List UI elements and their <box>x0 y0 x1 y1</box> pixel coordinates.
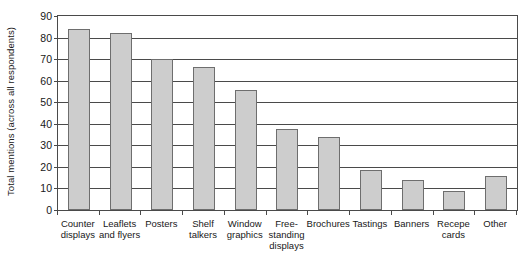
x-tick-label: Windowgraphics <box>227 218 263 240</box>
x-tick-label: Counterdisplays <box>61 218 95 240</box>
x-tick-label-line: Window <box>227 218 263 229</box>
x-tick-label: Recepecards <box>437 218 470 240</box>
bar-slot <box>225 16 267 210</box>
x-tick-label: Brochures <box>307 218 350 229</box>
bar-chart: Total mentions (across all respondents) … <box>0 0 530 265</box>
x-tick-label-line: cards <box>437 229 470 240</box>
x-tick-mark <box>474 210 475 215</box>
bar-slot <box>183 16 225 210</box>
x-tick-mark <box>224 210 225 215</box>
bar-slot <box>350 16 392 210</box>
x-tick-label-line: graphics <box>227 229 263 240</box>
y-tick-label: 20 <box>12 161 58 173</box>
x-tick-label: Free-standingdisplays <box>269 218 305 251</box>
x-tick-label: Other <box>483 218 507 229</box>
bar <box>318 137 340 210</box>
bar-slot <box>267 16 309 210</box>
x-tick-label-line: Other <box>483 218 507 229</box>
x-tick-label-line: Shelf <box>189 218 217 229</box>
x-tick-mark <box>140 210 141 215</box>
x-tick-label: Banners <box>394 218 429 229</box>
y-tick-label: 30 <box>12 139 58 151</box>
bar <box>276 129 298 210</box>
bar-slot <box>434 16 476 210</box>
x-tick-label-line: and flyers <box>99 229 140 240</box>
x-tick-mark <box>516 210 517 215</box>
bar-slot <box>58 16 100 210</box>
bar <box>402 180 424 210</box>
x-tick-label-line: standing <box>269 229 305 240</box>
y-tick-label: 0 <box>12 204 58 216</box>
bar <box>235 90 257 210</box>
x-tick-label: Leafletsand flyers <box>99 218 140 240</box>
x-tick-label: Posters <box>145 218 177 229</box>
x-tick-label-line: Tastings <box>353 218 388 229</box>
bar <box>360 170 382 210</box>
y-tick-label: 10 <box>12 182 58 194</box>
bar <box>110 33 132 210</box>
bar-slot <box>475 16 517 210</box>
x-tick-mark <box>391 210 392 215</box>
x-tick-label-line: displays <box>269 240 305 251</box>
y-tick-label: 70 <box>12 53 58 65</box>
x-axis: CounterdisplaysLeafletsand flyersPosters… <box>57 210 516 265</box>
y-tick-label: 90 <box>12 10 58 22</box>
x-tick-label-line: Free- <box>269 218 305 229</box>
y-tick-label: 40 <box>12 118 58 130</box>
bar <box>68 29 90 210</box>
x-tick-label-line: Brochures <box>307 218 350 229</box>
x-tick-mark <box>57 210 58 215</box>
bar-slot <box>308 16 350 210</box>
x-tick-label: Shelftalkers <box>189 218 217 240</box>
x-tick-label-line: Posters <box>145 218 177 229</box>
bar-slot <box>100 16 142 210</box>
bar-slot <box>392 16 434 210</box>
x-tick-label: Tastings <box>353 218 388 229</box>
x-tick-label-line: Leaflets <box>99 218 140 229</box>
x-tick-label-line: Banners <box>394 218 429 229</box>
y-tick-label: 60 <box>12 75 58 87</box>
x-tick-label-line: talkers <box>189 229 217 240</box>
x-tick-label-line: displays <box>61 229 95 240</box>
y-tick-label: 50 <box>12 96 58 108</box>
x-tick-mark <box>266 210 267 215</box>
bar <box>193 67 215 210</box>
x-tick-label-line: Recepe <box>437 218 470 229</box>
bar <box>443 191 465 210</box>
x-tick-mark <box>182 210 183 215</box>
plot-area: 0102030405060708090 <box>57 15 518 211</box>
bars <box>58 16 517 210</box>
x-tick-mark <box>99 210 100 215</box>
x-tick-mark <box>433 210 434 215</box>
bar-slot <box>141 16 183 210</box>
y-tick-label: 80 <box>12 32 58 44</box>
bar <box>485 176 507 210</box>
x-tick-mark <box>307 210 308 215</box>
bar <box>151 59 173 210</box>
x-tick-label-line: Counter <box>61 218 95 229</box>
x-tick-mark <box>349 210 350 215</box>
